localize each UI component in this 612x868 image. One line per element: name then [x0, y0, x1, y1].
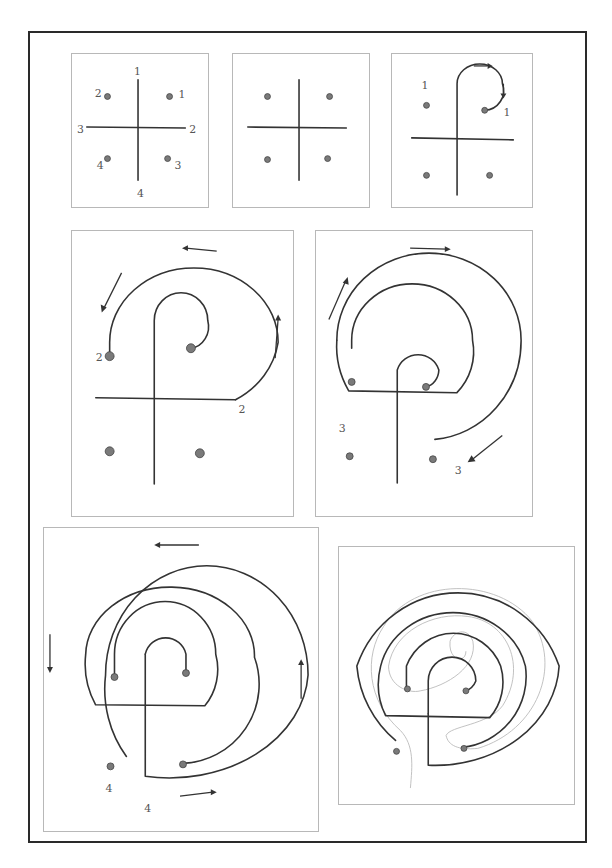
svg-text:3: 3	[174, 159, 181, 172]
arrow-right-icon	[410, 246, 451, 252]
arrow-down-left-icon	[468, 435, 503, 462]
arrow-up-right-icon	[329, 277, 349, 320]
svg-text:4: 4	[106, 782, 113, 795]
svg-text:2: 2	[95, 87, 102, 100]
arrow-left-icon	[154, 542, 199, 548]
svg-text:3: 3	[455, 464, 462, 477]
svg-text:2: 2	[96, 351, 103, 364]
arrow-right-icon	[180, 789, 217, 796]
arrow-down-icon	[47, 634, 53, 673]
completed-labyrinth-diagram	[339, 547, 574, 804]
svg-text:3: 3	[77, 123, 84, 136]
svg-text:2: 2	[189, 123, 196, 136]
walking-path-trace	[371, 589, 545, 788]
second-arc-diagram: 2 2	[72, 231, 293, 516]
svg-text:1: 1	[503, 106, 510, 119]
panel-step-2-seed	[232, 53, 370, 208]
panel-step-4-second-arc: 2 2	[71, 230, 294, 517]
svg-text:1: 1	[422, 79, 429, 92]
arrow-up-icon	[298, 659, 304, 699]
seed-cross-diagram: 1 2 3 4 2 1 4 3	[72, 54, 208, 207]
seed-cross-diagram	[233, 54, 369, 207]
panel-step-1-seed-numbered: 1 2 3 4 2 1 4 3	[71, 53, 209, 208]
svg-text:4: 4	[144, 802, 151, 815]
panel-step-7-completed-labyrinth	[338, 546, 575, 805]
svg-text:4: 4	[137, 187, 144, 200]
third-arc-diagram: 3 3	[316, 231, 532, 516]
arrow-down-left-icon	[101, 273, 122, 313]
svg-text:4: 4	[97, 159, 104, 172]
panel-step-6-fourth-arc: 4 4	[43, 527, 319, 832]
first-arc-diagram: 1 1	[392, 54, 532, 207]
arrow-left-icon	[182, 245, 217, 251]
fourth-arc-diagram: 4 4	[44, 528, 318, 831]
svg-text:3: 3	[339, 422, 346, 435]
svg-text:1: 1	[178, 88, 185, 101]
panel-step-3-first-arc: 1 1	[391, 53, 533, 208]
arrow-down-icon	[500, 84, 506, 99]
panel-step-5-third-arc: 3 3	[315, 230, 533, 517]
svg-text:2: 2	[238, 403, 245, 416]
svg-text:1: 1	[134, 65, 141, 78]
